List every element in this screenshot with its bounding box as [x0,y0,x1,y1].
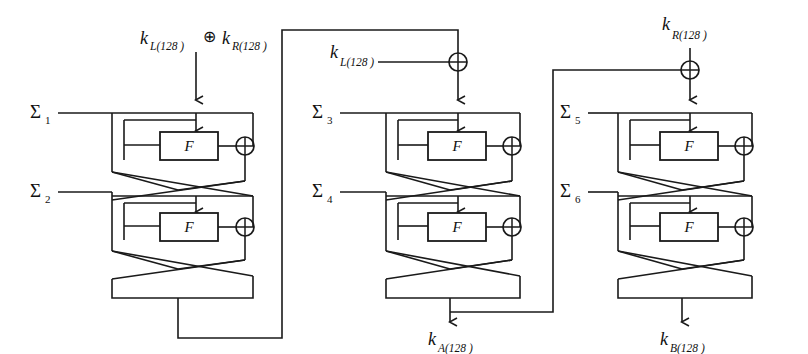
sigma-4-symbol: Σ [312,180,323,201]
sigma-4-label: Σ 4 [312,180,333,205]
block-1-r2-diag-a [112,251,178,269]
block-2-cross-2a [386,251,520,276]
block-3-round-1-f-label: F [683,138,694,154]
sigma-5-label: Σ 5 [560,101,581,126]
sigma-2-symbol: Σ [30,180,41,201]
output-kb-symbol: k [660,329,669,349]
sigma-1-label: Σ 1 [30,101,51,126]
block-1-round-2-f-label: F [183,219,194,235]
right-key-symbol: k [662,14,671,34]
output-kb-subscript: B(128 ) [670,342,705,354]
block-2-output-box [386,276,520,298]
right-key-label: k R(128 ) [662,14,707,42]
xor-operator-label: ⊕ [203,28,216,45]
block-1-cross-2a [112,251,253,276]
sigma-3-index: 3 [327,114,333,126]
sigma-1-symbol: Σ [30,101,41,122]
block-2-r2-diag-a [386,251,450,269]
block-3-cross-1a [618,172,752,196]
sigma-2-index: 2 [45,193,51,205]
sigma-2-label: Σ 2 [30,180,51,205]
block-1-round-1-f-label: F [183,138,194,154]
sigma-4-index: 4 [327,193,333,205]
top-left-key-symbol: k [140,28,149,48]
sigma-5-symbol: Σ [560,101,571,122]
block-2-round-1-f-label: F [451,138,462,154]
output-ka-symbol: k [428,329,437,349]
block-2-cross-1a [386,172,520,196]
block-3-cross-2a [618,251,752,276]
sigma-6-index: 6 [575,193,581,205]
block-2-round-2-f-label: F [451,219,462,235]
output-ka-label: k A(128 ) [428,329,473,354]
middle-key-subscript: L(128 ) [339,56,374,69]
sigma-5-index: 5 [575,114,581,126]
top-left-key-label: k L(128 ) ⊕ k R(128 ) [140,28,267,53]
block-1-cross-1a [112,172,253,196]
schematic-canvas: F F [0,0,808,354]
output-ka-subscript: A(128 ) [437,342,473,354]
block-1-output-box [112,276,253,298]
sigma-3-symbol: Σ [312,101,323,122]
sigma-3-label: Σ 3 [312,101,333,126]
middle-key-label: k L(128 ) [330,42,374,69]
block-1-to-block-2-feedback [178,30,410,338]
top-right-key-subscript: R(128 ) [231,40,267,53]
output-kb-label: k B(128 ) [660,329,705,354]
top-right-key-symbol: k [222,28,231,48]
sigma-6-symbol: Σ [560,180,571,201]
sigma-1-index: 1 [45,114,51,126]
block-3-round-2-f-label: F [683,219,694,235]
top-left-key-subscript: L(128 ) [149,40,184,53]
block-1-group: F F [58,30,410,338]
block-3-group: F F [588,48,753,322]
key-schedule-diagram: F F [0,0,808,354]
block-3-output-box [618,276,752,298]
sigma-6-label: Σ 6 [560,180,581,205]
block-3-r2-diag-a [618,251,682,269]
middle-key-symbol: k [330,42,339,62]
right-key-subscript: R(128 ) [671,29,707,42]
block-2-feedback-into-xor [410,30,458,53]
